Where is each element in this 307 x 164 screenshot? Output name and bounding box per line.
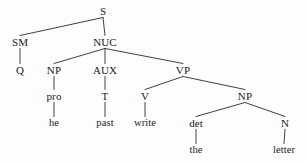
tree-edge — [20, 18, 103, 36]
tree-node-letter: letter — [273, 145, 295, 156]
syntax-tree-figure: SSMNUCQNPAUXVPproTVNPhepastwritedetNthel… — [0, 0, 307, 164]
tree-edge — [284, 130, 285, 144]
tree-edge — [245, 103, 285, 117]
tree-node-write: write — [134, 118, 156, 129]
tree-node-sm: SM — [12, 37, 28, 48]
tree-node-past: past — [96, 118, 113, 129]
tree-node-np2: NP — [238, 91, 252, 102]
tree-node-he: he — [49, 118, 59, 129]
tree-edge — [105, 49, 183, 64]
tree-edge — [196, 103, 245, 117]
tree-node-aux: AUX — [93, 65, 117, 76]
tree-node-pro: pro — [47, 91, 62, 102]
tree-node-q: Q — [16, 65, 24, 76]
tree-node-nuc: NUC — [93, 37, 117, 48]
tree-edges-layer — [0, 0, 307, 164]
tree-node-the: the — [189, 145, 202, 156]
tree-node-np1: NP — [47, 65, 61, 76]
tree-edge — [183, 77, 245, 90]
tree-edge — [145, 77, 183, 90]
tree-node-det: det — [189, 118, 203, 129]
tree-node-t: T — [102, 91, 109, 102]
tree-node-s: S — [100, 6, 106, 17]
tree-edge — [103, 18, 105, 36]
tree-node-v: V — [141, 91, 149, 102]
tree-node-n: N — [281, 118, 289, 129]
tree-node-vp: VP — [176, 65, 190, 76]
tree-edge — [54, 49, 105, 64]
